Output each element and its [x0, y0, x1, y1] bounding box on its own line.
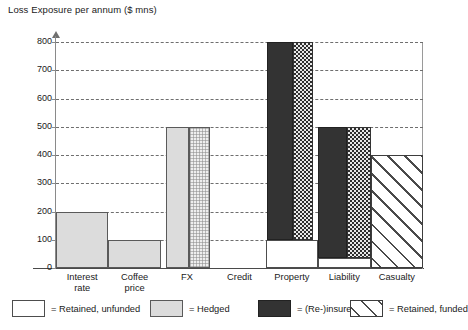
y-tick-value: 500 — [22, 121, 52, 131]
y-tick-value: 700 — [22, 64, 52, 74]
y-tick-value: 100 — [22, 234, 52, 244]
x-axis-line — [33, 268, 424, 269]
legend-swatch — [258, 300, 291, 317]
bar-band[interactable] — [56, 42, 108, 268]
legend-swatch — [12, 300, 45, 317]
bar-segment[interactable] — [347, 127, 371, 258]
legend: = Retained, unfunded= Hedged= (Re-)insur… — [0, 300, 443, 326]
legend-label: = Retained, unfunded — [51, 304, 140, 314]
x-category-label: Liability — [318, 272, 370, 283]
x-category-label: FX — [161, 272, 213, 283]
legend-swatch — [350, 300, 383, 317]
bar-segment[interactable] — [318, 258, 370, 268]
x-category-label: Property — [266, 272, 318, 283]
bar-band[interactable] — [371, 42, 423, 268]
x-category-label: Interest rate — [56, 272, 108, 294]
bar-segment[interactable] — [189, 127, 210, 268]
bar-segment[interactable] — [267, 42, 293, 240]
bar-band[interactable] — [266, 42, 318, 268]
y-tick-value: 400 — [22, 149, 52, 159]
y-tick-mark — [52, 268, 56, 269]
legend-item[interactable]: = Retained, funded — [350, 300, 468, 317]
y-tick-value: 800 — [22, 36, 52, 46]
bar-band[interactable] — [213, 42, 265, 268]
y-tick-value: 0 — [22, 262, 52, 272]
bar-segment[interactable] — [166, 127, 189, 268]
x-category-label: Credit — [213, 272, 265, 283]
x-category-label: Coffee price — [108, 272, 160, 294]
y-tick-value: 600 — [22, 93, 52, 103]
x-category-label: Casualty — [371, 272, 423, 283]
y-tick-value: 200 — [22, 206, 52, 216]
bar-band[interactable] — [161, 42, 213, 268]
bar-segment[interactable] — [56, 212, 108, 269]
y-tick-value: 300 — [22, 177, 52, 187]
bar-segment[interactable] — [293, 42, 313, 240]
y-axis-title: Loss Exposure per annum ($ mns) — [8, 4, 157, 16]
bar-band[interactable] — [108, 42, 160, 268]
legend-item[interactable]: = Hedged — [150, 300, 230, 317]
legend-label: = (Re-)insured — [297, 304, 357, 314]
legend-item[interactable]: = Retained, unfunded — [12, 300, 140, 317]
bar-band[interactable] — [318, 42, 370, 268]
plot-area — [56, 42, 423, 268]
legend-item[interactable]: = (Re-)insured — [258, 300, 357, 317]
legend-swatch — [150, 300, 183, 317]
legend-label: = Retained, funded — [389, 304, 468, 314]
legend-label: = Hedged — [189, 304, 230, 314]
bar-segment[interactable] — [371, 155, 423, 268]
bar-segment[interactable] — [108, 240, 160, 268]
bar-segment[interactable] — [266, 240, 318, 268]
bar-segment[interactable] — [318, 127, 347, 258]
